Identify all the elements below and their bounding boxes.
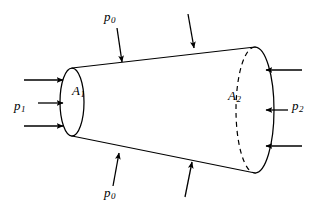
- p0-top-arrow-left: [117, 28, 122, 62]
- label-p0-bottom-subscript: 0: [111, 191, 116, 201]
- physics-diagram-figure: p0 p0 p1 p2 A1 A2: [0, 0, 321, 213]
- label-a2: A2: [228, 89, 241, 104]
- label-a1: A1: [72, 84, 85, 99]
- label-a2-subscript: 2: [236, 94, 241, 104]
- p0-bottom-arrow-left: [113, 153, 119, 186]
- label-p0-top-base: p: [104, 9, 111, 24]
- label-p1-base: p: [14, 98, 21, 113]
- frustum-top-edge: [72, 47, 255, 68]
- label-p0-bottom: p0: [104, 186, 116, 201]
- label-p0-top-subscript: 0: [111, 15, 116, 25]
- p1-arrow-group: [24, 80, 63, 126]
- label-a1-base: A: [72, 83, 80, 98]
- label-p1-subscript: 1: [21, 104, 26, 114]
- label-p0-top: p0: [104, 10, 116, 25]
- frustum-bottom-edge: [72, 136, 255, 173]
- label-p2-subscript: 2: [299, 104, 304, 114]
- p0-top-arrow-right: [188, 14, 194, 48]
- label-a2-base: A: [228, 88, 236, 103]
- label-p1: p1: [14, 99, 26, 114]
- p0-bottom-arrow-group: [113, 153, 192, 197]
- label-p0-bottom-base: p: [104, 185, 111, 200]
- left-face-ellipse-a1: [60, 68, 84, 136]
- frustum-body: [60, 47, 274, 173]
- p0-bottom-arrow-right: [185, 162, 192, 197]
- label-p2-base: p: [292, 98, 299, 113]
- diagram-canvas: [0, 0, 321, 213]
- label-p2: p2: [292, 99, 304, 114]
- label-a1-subscript: 1: [80, 89, 85, 99]
- right-face-hidden-arc-a2: [236, 47, 255, 173]
